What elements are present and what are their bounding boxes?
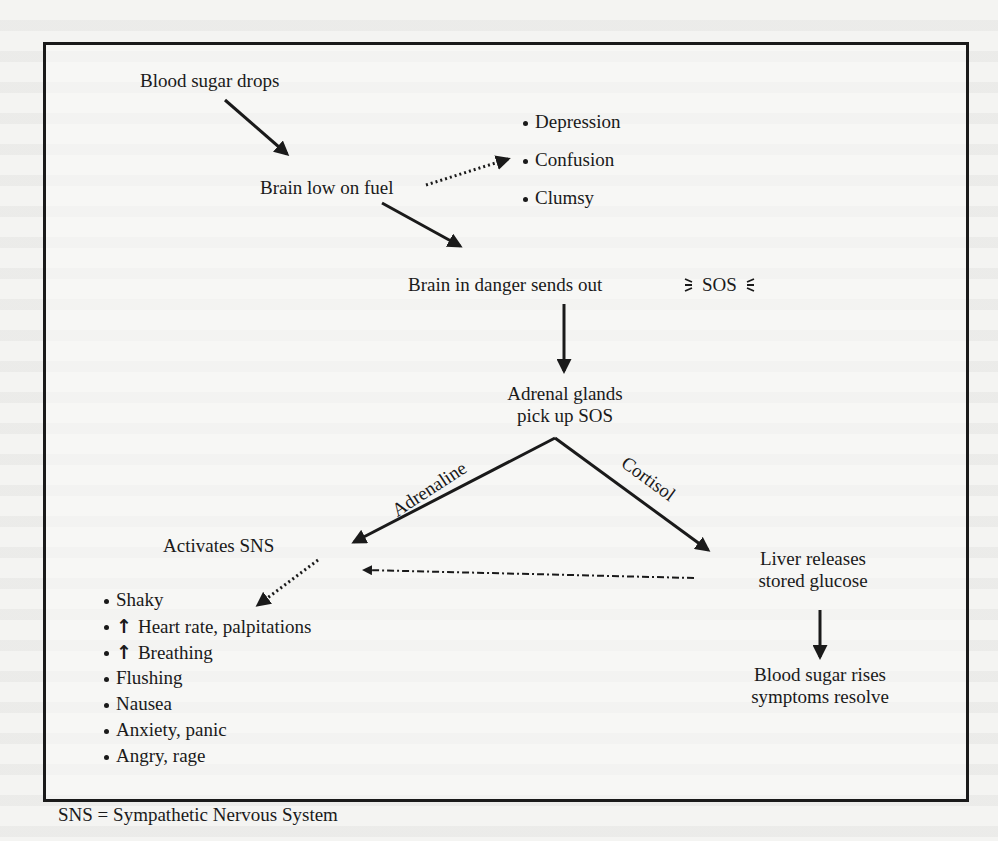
brain-symptom-item: Confusion — [523, 141, 620, 179]
sns-symptom-item: Angry, rage — [104, 743, 312, 769]
node-liver-releases: Liver releases stored glucose — [738, 548, 888, 592]
brain-symptom-item: Depression — [523, 103, 620, 141]
liver-line2: stored glucose — [738, 570, 888, 592]
signal-waves-right-icon — [745, 276, 755, 294]
node-adrenal-glands: Adrenal glands pick up SOS — [490, 383, 640, 427]
sns-symptom-item: Flushing — [104, 665, 312, 691]
liver-line1: Liver releases — [738, 548, 888, 570]
sns-symptom-item: Anxiety, panic — [104, 717, 312, 743]
adrenal-glands-line2: pick up SOS — [490, 405, 640, 427]
node-blood-sugar-rises: Blood sugar rises symptoms resolve — [740, 664, 900, 708]
sns-symptom-item: Nausea — [104, 691, 312, 717]
resolve-line2: symptoms resolve — [740, 686, 900, 708]
footnote-sns-definition: SNS = Sympathetic Nervous System — [58, 804, 338, 826]
node-blood-sugar-drops: Blood sugar drops — [140, 70, 279, 92]
sns-symptom-item: ↑Heart rate, palpitations — [104, 613, 312, 639]
signal-waves-left-icon — [684, 276, 694, 294]
brain-symptom-item: Clumsy — [523, 179, 620, 217]
adrenal-glands-line1: Adrenal glands — [490, 383, 640, 405]
node-brain-low-on-fuel: Brain low on fuel — [260, 177, 394, 199]
increase-arrow-icon: ↑ — [116, 639, 132, 665]
sos-signal: SOS — [684, 274, 755, 296]
node-activates-sns: Activates SNS — [163, 535, 274, 557]
sns-symptom-list: Shaky ↑Heart rate, palpitations ↑Breathi… — [104, 587, 312, 769]
increase-arrow-icon: ↑ — [116, 613, 132, 639]
resolve-line1: Blood sugar rises — [740, 664, 900, 686]
sns-symptom-item: ↑Breathing — [104, 639, 312, 665]
sos-label: SOS — [702, 274, 737, 296]
brain-symptom-list: Depression Confusion Clumsy — [523, 103, 620, 217]
node-brain-in-danger: Brain in danger sends out — [408, 274, 602, 296]
sns-symptom-item: Shaky — [104, 587, 312, 613]
